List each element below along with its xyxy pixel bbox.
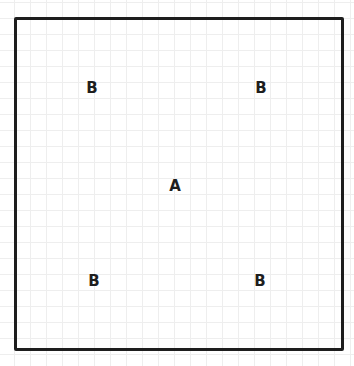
label-b-bottom-left: B	[88, 272, 99, 290]
label-b-top-right: B	[255, 79, 266, 97]
label-b-top-left: B	[86, 79, 97, 97]
label-a-center: A	[169, 177, 181, 195]
label-b-bottom-right: B	[254, 272, 265, 290]
